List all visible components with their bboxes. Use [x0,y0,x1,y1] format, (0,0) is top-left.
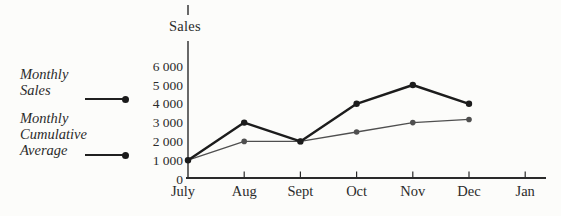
x-tick-label: Dec [457,183,480,199]
data-point-marker [466,117,472,123]
data-point-marker [297,138,303,144]
series-line [188,85,469,160]
y-axis-title: Sales [161,18,209,35]
data-point-marker [466,101,472,107]
data-point-marker [354,129,360,135]
x-tick-label: Oct [346,183,367,199]
series-monthly-sales [185,82,472,164]
data-point-marker [410,120,416,126]
x-tick-label: Jan [516,183,536,199]
y-axis-tick-labels: 01 0002 0003 0004 0005 0006 000 [153,59,184,187]
y-tick-label: 1 000 [153,153,184,168]
y-tick-label: 5 000 [153,78,184,93]
axes [186,5,546,178]
y-tick-label: 4 000 [153,96,184,111]
x-tick-label: July [171,183,196,199]
data-point-marker [241,119,247,125]
y-tick-label: 6 000 [153,59,184,74]
scanned-sales-chart-figure: Monthly Sales Monthly Cumulative Average… [0,0,561,216]
data-point-marker [353,101,359,107]
x-axis-category-labels: JulyAugSeptOctNovDecJan [171,183,536,199]
y-tick-label: 2 000 [153,134,184,149]
x-tick-label: Sept [288,183,314,199]
data-point-marker [241,139,247,145]
sales-line-chart: 01 0002 0003 0004 0005 0006 000JulyAugSe… [0,0,561,216]
data-point-marker [185,157,191,163]
x-tick-label: Aug [232,183,257,199]
y-tick-label: 3 000 [153,115,184,130]
data-point-marker [410,82,416,88]
series-line [188,119,469,160]
x-tick-label: Nov [400,183,426,199]
